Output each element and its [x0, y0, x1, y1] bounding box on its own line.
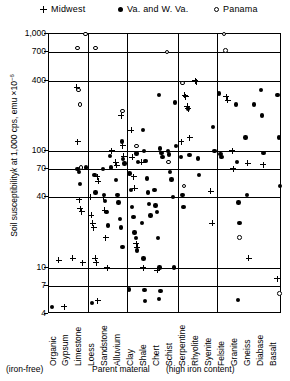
data-point [234, 102, 238, 106]
data-point [158, 289, 162, 293]
x-axis-categories: OrganicGypsumLimestoneLoessSandstoneAllu… [48, 316, 281, 366]
data-point [252, 102, 256, 106]
data-point [114, 178, 118, 182]
data-point [88, 212, 94, 218]
data-point [80, 260, 86, 266]
data-point [93, 190, 97, 194]
plus-icon [40, 6, 47, 13]
data-point [78, 182, 82, 186]
data-point [129, 188, 133, 192]
x-group-parent-material: Parent material [92, 364, 150, 374]
data-point [209, 220, 215, 226]
data-point [78, 102, 83, 107]
gridline-horizontal [49, 268, 280, 269]
data-point [93, 46, 98, 51]
data-point [230, 166, 236, 172]
data-point [153, 203, 157, 207]
data-point [245, 160, 251, 166]
legend-label-midwest: Midwest [51, 4, 85, 14]
data-point [182, 184, 187, 189]
data-point [120, 245, 124, 249]
data-point [143, 299, 147, 303]
data-point [156, 236, 160, 240]
data-point [235, 160, 239, 164]
data-point [179, 155, 183, 159]
data-point [108, 154, 112, 158]
data-point [148, 213, 152, 217]
data-point [197, 173, 201, 177]
data-point [142, 288, 146, 292]
gridline-vertical [178, 34, 179, 312]
data-point [56, 257, 62, 263]
x-tick-label: Granite [230, 338, 239, 366]
data-point [277, 291, 282, 296]
data-point [104, 265, 110, 271]
chart-legend: Midwest Va. and W. Va. Panama [0, 0, 290, 24]
data-point [140, 221, 144, 225]
data-point [236, 298, 240, 302]
data-point [118, 217, 122, 221]
data-point [101, 167, 105, 171]
data-point [157, 297, 161, 301]
data-point [217, 91, 221, 95]
y-axis-title-exponent: −6 [9, 74, 15, 81]
data-point [208, 188, 214, 194]
data-point [157, 93, 161, 97]
plot-area [48, 33, 281, 313]
data-point [211, 125, 215, 129]
data-point [70, 255, 76, 261]
legend-item-va-wva: Va. and W. Va. [118, 4, 189, 14]
y-axis-title: Soil susceptibilityk at 1,000 cps, emu ×… [9, 55, 20, 255]
data-point [140, 265, 146, 271]
data-point [167, 152, 171, 156]
data-point [109, 165, 113, 169]
data-point [77, 170, 81, 174]
y-axis-title-main: Soil susceptibility [9, 172, 19, 237]
data-point [196, 156, 200, 160]
data-point [158, 146, 162, 150]
x-tick-label: Schist [165, 343, 174, 366]
x-tick-label: Gneiss [243, 340, 252, 366]
x-axis-groups: (iron-free) Parent material (high iron c… [0, 364, 290, 380]
data-point [187, 153, 191, 157]
data-point [172, 265, 176, 269]
data-point [225, 97, 231, 103]
data-point [143, 159, 147, 163]
data-point [183, 94, 189, 100]
data-point [160, 155, 164, 159]
data-point [180, 193, 184, 197]
data-point [91, 225, 97, 231]
gridline-horizontal [49, 151, 280, 152]
data-point [130, 205, 134, 209]
data-point [145, 176, 149, 180]
data-point [157, 265, 161, 269]
data-point [61, 304, 67, 310]
data-point [171, 195, 175, 199]
y-axis-title-symbol: k [9, 168, 19, 172]
data-point [76, 88, 81, 93]
x-tick-label: Organic [49, 336, 58, 366]
data-point [146, 190, 150, 194]
data-point [115, 193, 119, 197]
x-tick-label: Rhyolite [191, 335, 200, 366]
data-point [155, 210, 159, 214]
data-point [261, 151, 265, 155]
data-point [103, 235, 109, 241]
data-point [243, 135, 247, 139]
data-point [93, 260, 99, 266]
data-point [180, 81, 185, 86]
data-point [152, 188, 156, 192]
y-tick-mark [44, 313, 48, 314]
data-point [76, 197, 82, 203]
data-point [229, 148, 235, 154]
data-point [219, 155, 223, 159]
legend-label-va-wva: Va. and W. Va. [127, 4, 189, 14]
x-tick-label: Chert [152, 345, 161, 366]
data-point [181, 205, 185, 209]
x-tick-label: Sandstone [100, 325, 109, 366]
data-point [187, 135, 193, 141]
data-point [84, 165, 88, 169]
data-point [116, 200, 120, 204]
data-point [245, 193, 249, 197]
data-point [127, 287, 131, 291]
